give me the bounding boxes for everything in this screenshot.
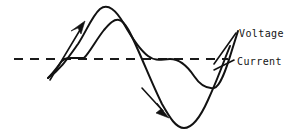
- phase-arrow-leading-shaft: [50, 30, 80, 80]
- voltage-waveform-curve: [48, 7, 238, 88]
- current-waveform-curve: [48, 20, 230, 128]
- waveform-figure: Voltage Current: [0, 0, 298, 137]
- waveform-canvas: Voltage Current: [0, 0, 298, 137]
- current-label: Current: [237, 56, 282, 67]
- voltage-label: Voltage: [239, 28, 284, 39]
